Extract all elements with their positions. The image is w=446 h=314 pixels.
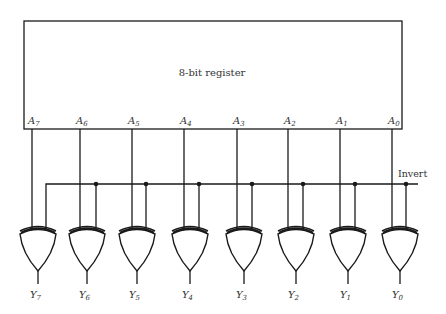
stage-bit-1: A1Y1 [330,115,366,302]
input-label: A6 [75,115,88,128]
output-label: Y2 [288,289,300,302]
junction-dot [197,182,202,187]
input-label: A5 [127,115,140,128]
input-label: A0 [387,115,400,128]
output-label: Y1 [340,289,351,302]
invert-line [46,184,418,230]
input-label: A2 [283,115,296,128]
xor-gate-icon [278,227,314,272]
xor-gate-icon [20,227,56,272]
output-label: Y5 [129,289,141,302]
stage-bit-0: A0Y0 [382,115,418,302]
xor-inverter-diagram: 8-bit register Invert A7Y7A6Y6A5Y5A4Y4A3… [0,0,446,314]
output-label: Y7 [30,289,42,302]
stage-bit-7: A7Y7 [20,115,56,302]
stage-bit-4: A4Y4 [172,115,208,302]
xor-gate-icon [69,227,105,272]
xor-gate-icon [172,227,208,272]
input-label: A3 [232,115,245,128]
junction-dot [353,182,358,187]
output-label: Y4 [182,289,193,302]
junction-dot [94,182,99,187]
output-label: Y6 [79,289,91,302]
junction-dot [404,182,409,187]
invert-label: Invert [398,168,427,179]
output-label: Y0 [392,289,404,302]
xor-gate-icon [330,227,366,272]
junction-dot [144,182,149,187]
junction-dot [250,182,255,187]
register-label: 8-bit register [179,67,246,78]
xor-gate-icon [382,227,418,272]
xor-gate-icon [226,227,262,272]
input-label: A1 [335,115,348,128]
xor-gate-icon [119,227,155,272]
stage-bit-5: A5Y5 [119,115,155,302]
stage-bit-6: A6Y6 [69,115,105,302]
stage-bit-2: A2Y2 [278,115,314,302]
junction-dot [301,182,306,187]
input-label: A4 [179,115,192,128]
output-label: Y3 [236,289,248,302]
input-label: A7 [27,115,40,128]
stage-bit-3: A3Y3 [226,115,262,302]
